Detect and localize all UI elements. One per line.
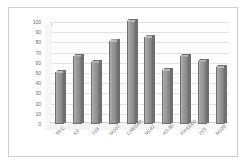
bar[interactable] (162, 70, 171, 124)
bar-slot (69, 22, 87, 124)
bar-slot (193, 22, 211, 124)
y-axis: 0102030405060708090100 (9, 22, 45, 130)
chart-frame: 0102030405060708090100 99-CK92S9M107CAES… (8, 7, 238, 157)
bar-slot (51, 22, 69, 124)
bar[interactable] (55, 72, 64, 124)
y-axis-tick: 50 (35, 70, 41, 76)
y-axis-tick: 40 (35, 80, 41, 86)
bar-slot (211, 22, 229, 124)
x-axis-labels: 99-CK92S9M107CAESARM142AS-90PzH20002S5M1… (51, 132, 229, 162)
bar[interactable] (109, 41, 118, 124)
y-axis-tick: 0 (38, 121, 41, 127)
bar-slot (87, 22, 105, 124)
y-axis-tick: 70 (35, 50, 41, 56)
y-axis-tick: 10 (35, 111, 41, 117)
bar[interactable] (180, 56, 189, 124)
bar[interactable] (91, 62, 100, 124)
bar-slot (104, 22, 122, 124)
bar-slot (176, 22, 194, 124)
bar[interactable] (73, 56, 82, 124)
bar-slot (140, 22, 158, 124)
y-axis-tick: 20 (35, 101, 41, 107)
bar[interactable] (127, 21, 136, 124)
bar[interactable] (216, 67, 225, 124)
bar[interactable] (144, 37, 153, 124)
bar-slot (122, 22, 140, 124)
y-axis-tick: 30 (35, 90, 41, 96)
y-axis-tick: 90 (35, 29, 41, 35)
y-axis-tick: 80 (35, 39, 41, 45)
bar-series (51, 22, 229, 124)
y-axis-tick: 100 (33, 19, 41, 25)
bar-slot (158, 22, 176, 124)
bar[interactable] (198, 61, 207, 124)
y-axis-tick: 60 (35, 60, 41, 66)
plot-area (45, 22, 229, 130)
